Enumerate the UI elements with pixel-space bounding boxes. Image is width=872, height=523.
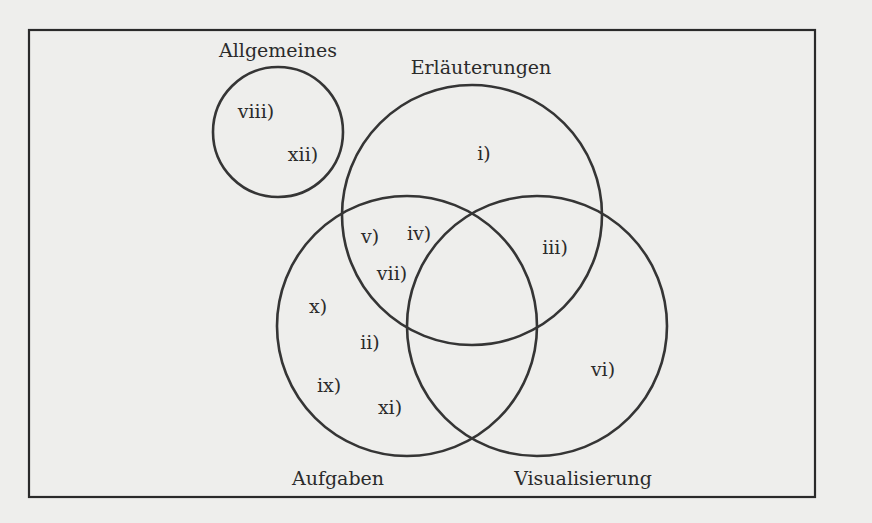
venn-diagram-page: AllgemeinesErläuterungenAufgabenVisualis… <box>0 0 872 523</box>
region-label: v) <box>360 225 379 247</box>
set-label-visualisierung: Visualisierung <box>513 467 652 489</box>
set-circle-erlaeuterungen <box>342 85 602 345</box>
region-label: x) <box>309 295 327 317</box>
region-label: xi) <box>378 396 402 418</box>
region-label: vii) <box>376 262 407 284</box>
region-label: iii) <box>542 236 568 258</box>
venn-diagram: AllgemeinesErläuterungenAufgabenVisualis… <box>0 0 872 523</box>
set-circle-allgemeines <box>213 67 343 197</box>
region-label: xii) <box>288 143 318 165</box>
set-labels: AllgemeinesErläuterungenAufgabenVisualis… <box>218 39 652 489</box>
region-label: vi) <box>590 358 615 380</box>
set-circles <box>213 67 667 456</box>
set-label-aufgaben: Aufgaben <box>291 467 384 489</box>
set-label-allgemeines: Allgemeines <box>218 39 337 61</box>
region-label: iv) <box>407 222 431 244</box>
region-label: ii) <box>360 331 380 353</box>
region-label: ix) <box>317 374 341 396</box>
region-label: viii) <box>237 100 274 122</box>
set-label-erlaeuterungen: Erläuterungen <box>411 56 552 78</box>
region-label: i) <box>477 142 491 164</box>
